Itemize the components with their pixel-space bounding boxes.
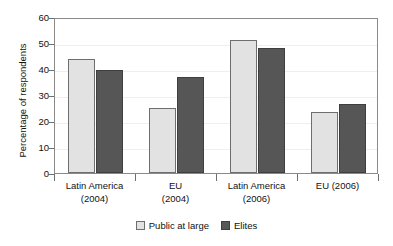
y-tick-label: 20 — [19, 117, 49, 127]
bar-elites — [177, 77, 204, 173]
plot-area — [54, 18, 378, 174]
legend-swatch-icon — [221, 221, 230, 230]
y-tick-mark — [48, 70, 54, 71]
legend-label: Public at large — [149, 220, 209, 231]
x-category-label: EU (2006) — [297, 180, 378, 193]
x-category-label-line: (2006) — [216, 193, 297, 206]
bar-public-at-large — [149, 108, 176, 173]
x-category-label: Latin America(2006) — [216, 180, 297, 205]
y-tick-label: 50 — [19, 39, 49, 49]
x-tick-mark — [378, 174, 379, 181]
bar-elites — [258, 48, 285, 173]
bar-elites — [96, 70, 123, 173]
y-tick-label: 40 — [19, 65, 49, 75]
y-tick-label: 30 — [19, 91, 49, 101]
legend-item: Public at large — [136, 220, 209, 231]
legend-item: Elites — [221, 220, 257, 231]
y-tick-label: 60 — [19, 13, 49, 23]
x-category-label-line: EU (2006) — [316, 180, 359, 191]
x-category-label-line: (2004) — [135, 193, 216, 206]
x-category-label: EU(2004) — [135, 180, 216, 205]
y-tick-mark — [48, 96, 54, 97]
x-category-label: Latin America(2004) — [54, 180, 135, 205]
y-tick-mark — [48, 18, 54, 19]
bar-chart: Percentage of respondents 0102030405060 … — [0, 0, 393, 246]
gridline — [55, 45, 377, 46]
bar-elites — [339, 104, 366, 173]
legend-swatch-icon — [136, 221, 145, 230]
y-tick-mark — [48, 148, 54, 149]
chart-legend: Public at largeElites — [0, 220, 393, 231]
y-tick-mark — [48, 44, 54, 45]
x-category-label-line: Latin America — [66, 180, 124, 191]
bar-public-at-large — [230, 40, 257, 173]
legend-label: Elites — [234, 220, 257, 231]
x-category-label-line: (2004) — [54, 193, 135, 206]
x-category-label-line: Latin America — [228, 180, 286, 191]
bar-public-at-large — [68, 59, 95, 173]
y-tick-label: 0 — [19, 169, 49, 179]
bar-public-at-large — [311, 112, 338, 173]
y-tick-mark — [48, 122, 54, 123]
x-category-label-line: EU — [169, 180, 182, 191]
y-tick-label: 10 — [19, 143, 49, 153]
